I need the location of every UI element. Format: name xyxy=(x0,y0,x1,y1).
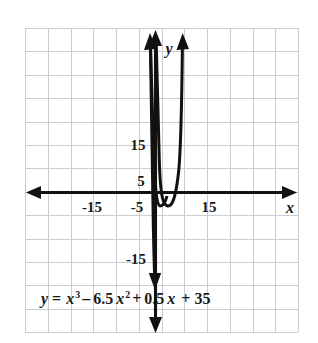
equation-term1-base: x xyxy=(65,290,74,307)
math-graph-figure: -15 -5 15 15 5 -15 x y y=x3–6.5x2+0.5x+3… xyxy=(0,0,318,343)
y-axis-label: y xyxy=(163,40,173,58)
equation-term1-exponent: 3 xyxy=(75,289,80,300)
equation-term3-base: x xyxy=(166,290,175,307)
equation-term2-exponent: 2 xyxy=(125,289,130,300)
y-tick-label-15: 15 xyxy=(131,137,146,153)
y-tick-label-neg15: -15 xyxy=(126,251,146,267)
equation-lhs: y xyxy=(39,290,49,308)
graph-canvas: -15 -5 15 15 5 -15 x y y=x3–6.5x2+0.5x+3… xyxy=(0,0,318,343)
equation-equals: = xyxy=(52,290,61,307)
x-tick-label-neg5: -5 xyxy=(131,199,144,215)
equation-term2-base: x xyxy=(115,290,124,307)
equation-plus-2: + xyxy=(181,290,190,307)
equation-term3-coef: 0.5 xyxy=(144,290,164,307)
equation-minus: – xyxy=(81,290,91,307)
y-tick-label-5: 5 xyxy=(137,173,145,189)
equation-plus-1: + xyxy=(132,290,141,307)
equation-term2-coef: 6.5 xyxy=(93,290,113,307)
x-axis-label: x xyxy=(285,199,294,216)
x-tick-label-15: 15 xyxy=(202,199,217,215)
equation-constant: 35 xyxy=(194,290,210,307)
x-tick-label-neg15: -15 xyxy=(82,199,102,215)
